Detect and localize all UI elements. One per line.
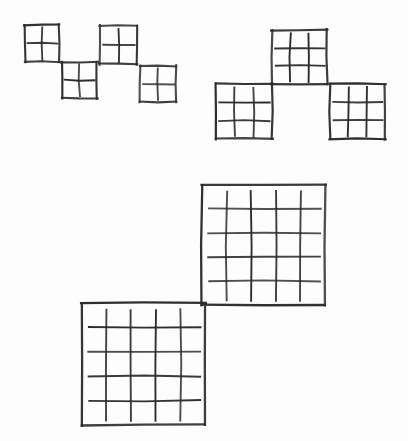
- square-a1-border-bottom: [24, 61, 61, 62]
- square-c2-border-bottom: [81, 424, 206, 425]
- square-a4-border-bottom: [139, 101, 178, 102]
- square-a4-border-top: [139, 66, 177, 67]
- square-b2-border-right: [272, 82, 273, 140]
- square-b1-grid-line-horizontal-2: [275, 65, 326, 66]
- square-b1-grid-line-vertical-1: [289, 32, 290, 82]
- square-c1-grid-line-vertical-4: [300, 190, 301, 301]
- top-left-cluster: [23, 23, 177, 103]
- square-a4: [139, 64, 178, 103]
- square-c1-grid-line-vertical-1: [226, 191, 227, 301]
- square-c1-grid-line-horizontal-1: [208, 208, 322, 209]
- square-c2-grid-line-vertical-4: [180, 308, 181, 421]
- square-c1-border-bottom: [201, 305, 326, 306]
- square-b2-border-top: [215, 83, 274, 84]
- square-b1-border-top: [270, 30, 328, 31]
- square-b3-grid-line-vertical-1: [348, 86, 349, 137]
- square-a2: [60, 61, 99, 100]
- square-c2-grid-line-vertical-3: [155, 309, 156, 422]
- square-b1: [270, 28, 328, 85]
- square-c2-border-top: [80, 302, 207, 303]
- square-c1-grid-line-vertical-3: [276, 190, 277, 302]
- square-c1-grid-line-horizontal-2: [207, 233, 321, 234]
- grid-squares-figure: [0, 0, 408, 441]
- square-a1-border-right: [59, 23, 60, 63]
- square-b3-border-left: [329, 83, 330, 140]
- square-b2-border-bottom: [215, 138, 274, 139]
- square-a1: [23, 23, 61, 63]
- square-a1-grid-line-horizontal-1: [27, 43, 59, 44]
- square-b2-grid-line-vertical-2: [253, 87, 254, 138]
- square-a3-border-bottom: [98, 64, 138, 65]
- square-a3-border-top: [98, 25, 138, 26]
- square-a2-border-top: [60, 62, 99, 63]
- square-a3: [98, 24, 138, 66]
- square-b2-grid-line-horizontal-2: [218, 120, 270, 121]
- square-b1-border-right: [326, 28, 327, 85]
- figure-root: [0, 0, 408, 441]
- square-a1-border-top: [23, 24, 60, 25]
- square-c2-grid-line-horizontal-4: [88, 400, 201, 401]
- top-right-cluster: [215, 28, 387, 141]
- square-b3-border-top: [329, 83, 387, 84]
- square-c1: [200, 184, 327, 307]
- square-b3: [328, 83, 386, 141]
- square-a1-border-left: [25, 24, 26, 63]
- square-b3-grid-line-vertical-2: [366, 86, 367, 137]
- square-b3-grid-line-horizontal-1: [332, 102, 383, 103]
- square-c1-grid-line-vertical-2: [251, 190, 252, 302]
- square-a3-border-right: [137, 25, 138, 66]
- square-a1-grid-line-vertical-1: [42, 26, 43, 61]
- square-a4-border-left: [140, 65, 141, 104]
- square-c2-grid-line-horizontal-3: [88, 375, 201, 376]
- square-c2-grid-line-horizontal-1: [88, 327, 202, 328]
- square-b2: [215, 82, 274, 140]
- square-b1-border-left: [272, 29, 273, 85]
- square-b3-border-bottom: [328, 138, 386, 139]
- square-a4-border-right: [176, 64, 177, 103]
- square-b2-grid-line-vertical-1: [234, 86, 235, 136]
- square-c1-border-left: [201, 184, 202, 306]
- square-c1-grid-line-horizontal-4: [208, 280, 321, 281]
- bottom-cluster: [80, 184, 327, 427]
- square-c1-grid-line-horizontal-3: [207, 257, 321, 258]
- square-c2: [80, 302, 207, 427]
- square-c1-border-right: [325, 184, 326, 307]
- square-a2-border-bottom: [61, 98, 99, 99]
